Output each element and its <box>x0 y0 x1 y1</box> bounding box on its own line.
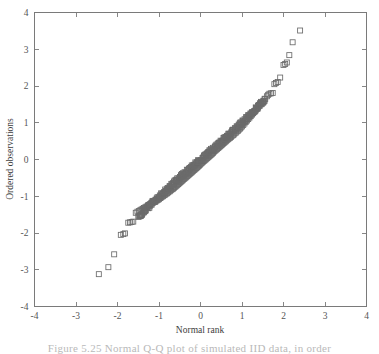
y-axis-title: Ordered observations <box>5 118 15 200</box>
x-tick-label: -3 <box>72 311 80 321</box>
y-tick-label: -4 <box>21 302 29 312</box>
y-tick-label: -1 <box>21 192 29 202</box>
x-axis-title: Normal rank <box>176 325 225 335</box>
y-tick-label: -3 <box>21 265 29 275</box>
data-point <box>106 265 111 270</box>
y-tick-label: -2 <box>21 228 29 238</box>
x-tick-label: 1 <box>240 311 245 321</box>
x-tick-label: -1 <box>155 311 163 321</box>
figure-caption: Figure 5.25 Normal Q-Q plot of simulated… <box>0 342 379 354</box>
data-point <box>290 40 295 45</box>
y-tick-label: 4 <box>24 8 29 18</box>
y-tick-label: 1 <box>24 118 29 128</box>
data-point <box>287 53 292 58</box>
y-tick-label: 0 <box>24 155 29 165</box>
x-tick-label: 3 <box>323 311 328 321</box>
x-tick-label: 2 <box>281 311 286 321</box>
data-point <box>96 272 101 277</box>
x-tick-label: 0 <box>198 311 203 321</box>
x-tick-label: 4 <box>364 311 369 321</box>
scatter-markers <box>96 28 302 277</box>
data-point <box>112 252 117 257</box>
x-tick-label: -4 <box>31 311 39 321</box>
y-tick-label: 3 <box>24 45 29 55</box>
data-point <box>298 28 303 33</box>
x-axis-tick-labels: -4-3-2-101234 <box>31 311 370 321</box>
y-axis-tick-labels: -4-3-2-101234 <box>21 8 29 312</box>
x-tick-label: -2 <box>114 311 122 321</box>
y-tick-label: 2 <box>24 81 29 91</box>
